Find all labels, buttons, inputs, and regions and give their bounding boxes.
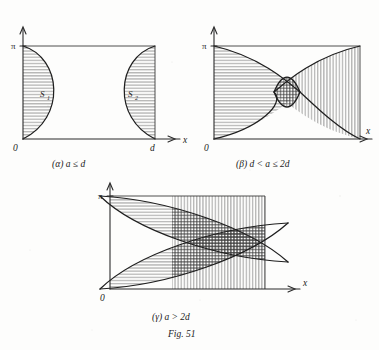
paper-background	[0, 0, 379, 350]
alpha-x-axis-label: x	[182, 135, 188, 145]
gamma-caption: (γ) a > 2d	[152, 312, 190, 323]
alpha-pi-label: π	[11, 41, 16, 51]
figure-number: Fig. 51	[167, 329, 195, 339]
figure-scan: π 0 d x S 1 S 2 (α) a ≤ d	[0, 0, 379, 350]
alpha-caption: (α) a ≤ d	[52, 159, 85, 170]
gamma-x-axis-label: x	[302, 278, 308, 288]
alpha-origin-label: 0	[13, 143, 18, 153]
beta-x-axis-label: x	[365, 126, 371, 136]
gamma-origin-label: 0	[100, 293, 105, 303]
s2-base: S	[128, 89, 133, 99]
beta-origin-label: 0	[204, 143, 209, 153]
s2-subscript: 2	[135, 95, 138, 101]
s1-subscript: 1	[47, 95, 50, 101]
gamma-pi-label: π	[98, 191, 103, 201]
alpha-d-label: d	[150, 143, 155, 153]
figure-51-svg: π 0 d x S 1 S 2 (α) a ≤ d	[0, 0, 379, 350]
beta-pi-label: π	[202, 41, 207, 51]
s1-base: S	[40, 89, 45, 99]
beta-caption: (β) d < a ≤ 2d	[236, 159, 290, 170]
